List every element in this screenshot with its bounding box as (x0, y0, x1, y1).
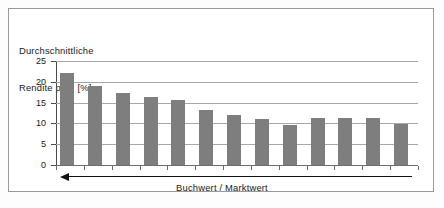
bar (311, 118, 325, 165)
bar (88, 86, 102, 165)
y-tick-label-20: 20 (22, 77, 46, 87)
y-tick-mark-20 (51, 82, 56, 83)
y-tick-mark-15 (51, 103, 56, 104)
bar (116, 93, 130, 165)
bar (171, 100, 185, 165)
x-tick-mark-0 (56, 166, 57, 170)
y-tick-label-15: 15 (22, 98, 46, 108)
chart-figure: Durchschnittliche Rendite p.a. [%] 05101… (0, 0, 444, 208)
decreasing-direction-arrow-icon (60, 172, 412, 181)
gridline-0 (56, 165, 418, 166)
y-tick-label-25: 25 (22, 56, 46, 66)
bar (199, 110, 213, 165)
y-tick-label-0: 0 (22, 160, 46, 170)
x-tick-mark-5 (195, 166, 196, 170)
y-tick-mark-25 (51, 61, 56, 62)
x-tick-mark-9 (307, 166, 308, 170)
y-tick-mark-10 (51, 123, 56, 124)
y-tick-mark-5 (51, 144, 56, 145)
x-tick-mark-6 (223, 166, 224, 170)
bar (366, 118, 380, 165)
bar (144, 97, 158, 165)
bar (338, 118, 352, 165)
bar (60, 73, 74, 165)
bar (283, 125, 297, 165)
x-tick-mark-12 (390, 166, 391, 170)
x-tick-mark-1 (84, 166, 85, 170)
gridline-20 (56, 82, 418, 83)
plot-area (56, 61, 418, 165)
x-tick-mark-2 (112, 166, 113, 170)
gridline-15 (56, 103, 418, 104)
bar (255, 119, 269, 165)
y-tick-label-10: 10 (22, 118, 46, 128)
arrow-shaft (66, 176, 412, 177)
x-tick-mark-3 (140, 166, 141, 170)
bar (394, 124, 408, 165)
x-tick-mark-4 (167, 166, 168, 170)
x-tick-mark-13 (418, 166, 419, 170)
y-tick-label-5: 5 (22, 139, 46, 149)
x-tick-mark-11 (362, 166, 363, 170)
bar (227, 115, 241, 165)
x-tick-mark-7 (251, 166, 252, 170)
x-tick-mark-10 (334, 166, 335, 170)
x-tick-mark-8 (279, 166, 280, 170)
x-axis-label: Buchwert / Marktwert (0, 182, 444, 193)
gridline-25 (56, 61, 418, 62)
